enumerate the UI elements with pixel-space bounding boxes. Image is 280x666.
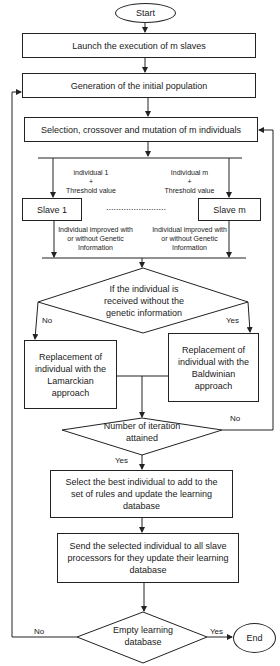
decision-iteration: Number of iteration attained <box>102 418 182 446</box>
label-iteration-no: No <box>230 414 240 424</box>
generation-step: Generation of the initial population <box>22 73 256 98</box>
label-genetic-yes: Yes <box>226 316 239 326</box>
label-empty-no: No <box>34 627 44 637</box>
slave-m-node: Slave m <box>198 198 261 221</box>
edge-label-to-slavem: Individual m + Threshold value <box>152 168 227 195</box>
end-terminal: End <box>233 623 276 653</box>
slave-1-node: Slave 1 <box>22 198 82 221</box>
edge-label-from-slavem: Individual improved with or without Gene… <box>152 225 227 252</box>
send-individual-step: Send the selected individual to all slav… <box>57 533 239 583</box>
ellipsis-separator: ........................ <box>106 202 166 212</box>
label-genetic-no: No <box>42 316 52 326</box>
start-terminal: Start <box>115 3 176 23</box>
edge-label-to-slave1: individual 1 + Threshold value <box>56 168 126 195</box>
baldwinian-step: Replacement of individual with the Baldw… <box>168 333 259 402</box>
label-iteration-yes: Yes <box>115 456 128 466</box>
decision-genetic-info: If the individual is received without th… <box>98 276 190 326</box>
decision-empty-db: Empty learning database <box>107 622 179 650</box>
edge-label-from-slave1: Individual improved with or without Gene… <box>58 225 133 252</box>
selection-step: Selection, crossover and mutation of m i… <box>24 117 258 142</box>
label-empty-yes: Yes <box>210 627 223 637</box>
select-best-step: Select the best individual to add to the… <box>50 470 233 518</box>
launch-slaves-step: Launch the execution of m slaves <box>22 33 256 58</box>
lamarckian-step: Replacement of individual with the Lamar… <box>24 340 117 409</box>
